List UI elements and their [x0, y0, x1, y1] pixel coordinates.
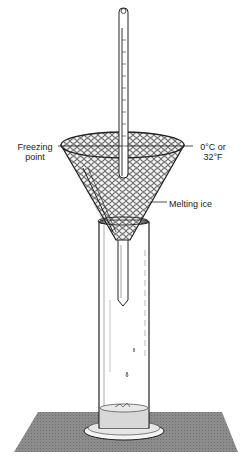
diagram-illustration [0, 0, 245, 465]
freezing-point-label-line1: Freezing [12, 142, 58, 152]
thermometer [119, 8, 128, 178]
temperature-label-line1: 0°C or [193, 142, 233, 152]
collected-water [100, 403, 148, 428]
temperature-label: 0°C or 32°F [193, 142, 233, 162]
temperature-label-line2: 32°F [193, 152, 233, 162]
freezing-point-label: Freezing point [12, 142, 58, 162]
freezing-point-label-line2: point [12, 152, 58, 162]
melting-ice-label: Melting ice [169, 199, 212, 209]
funnel-stem [118, 240, 128, 306]
